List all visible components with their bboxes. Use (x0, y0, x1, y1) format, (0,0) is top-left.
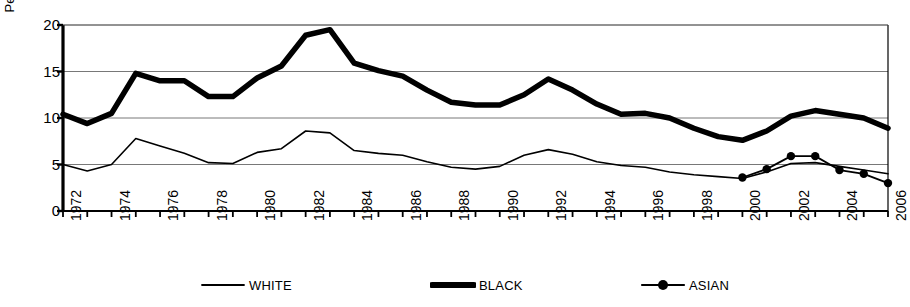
legend-item-white[interactable]: WHITE (200, 272, 292, 298)
axes (57, 25, 888, 217)
data-point-marker (835, 166, 843, 174)
marker-line-swatch-icon (640, 276, 686, 294)
data-point-marker (738, 173, 746, 181)
gridlines (63, 25, 888, 211)
legend-label: BLACK (479, 278, 523, 293)
series-lines (63, 30, 892, 188)
thin-line-swatch-icon (200, 276, 246, 294)
data-point-marker (884, 179, 892, 187)
data-point-marker (762, 165, 770, 173)
legend-item-asian[interactable]: ASIAN (640, 272, 729, 298)
thick-line-swatch-icon (430, 276, 476, 294)
chart-container: Percent 05101520 19721974197619781980198… (0, 0, 910, 307)
legend-label: ASIAN (689, 278, 729, 293)
legend-label: WHITE (249, 278, 292, 293)
plot-area (0, 0, 910, 307)
chart-legend: WHITEBLACKASIAN (0, 272, 910, 302)
data-point-marker (787, 152, 795, 160)
legend-item-black[interactable]: BLACK (430, 272, 523, 298)
data-point-marker (860, 170, 868, 178)
series-line-black (63, 30, 888, 141)
data-point-marker (811, 152, 819, 160)
